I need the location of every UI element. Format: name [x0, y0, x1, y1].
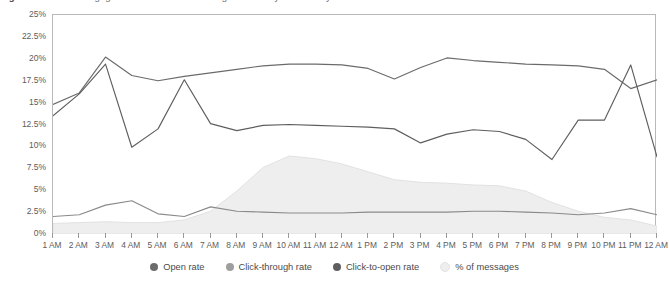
x-tick-label: 2 PM [384, 240, 404, 250]
figure-caption: Figure 4.1.2 Email engagement metrics an… [0, 0, 669, 3]
x-tick [420, 233, 421, 238]
legend-swatch-icon [333, 263, 341, 271]
y-tick-label: 22.5% [22, 31, 46, 41]
x-tick [52, 233, 53, 238]
x-tick-label: 1 PM [357, 240, 377, 250]
legend-item[interactable]: Open rate [150, 262, 204, 272]
legend-item[interactable]: Click-to-open rate [333, 262, 419, 272]
y-tick-label: 17.5% [22, 75, 46, 85]
series-area-of-messages [53, 156, 657, 234]
x-tick-label: 7 PM [515, 240, 535, 250]
x-tick-label: 9 PM [567, 240, 587, 250]
figure-root: Figure 4.1.2 Email engagement metrics an… [0, 0, 669, 282]
x-tick [262, 233, 263, 238]
x-tick-label: 9 AM [253, 240, 272, 250]
x-tick [78, 233, 79, 238]
legend-label: Click-to-open rate [346, 262, 419, 272]
x-axis: 1 AM2 AM3 AM4 AM5 AM6 AM7 AM8 AM9 AM10 A… [52, 233, 656, 257]
x-tick-label: 8 PM [541, 240, 561, 250]
x-tick [525, 233, 526, 238]
x-tick [157, 233, 158, 238]
x-tick-label: 3 AM [95, 240, 114, 250]
x-tick-label: 4 PM [436, 240, 456, 250]
x-tick-label: 1 AM [42, 240, 61, 250]
x-tick-label: 6 PM [489, 240, 509, 250]
legend-swatch-icon [226, 263, 234, 271]
x-tick [105, 233, 106, 238]
y-tick-label: 7.5% [27, 162, 46, 172]
x-tick [551, 233, 552, 238]
legend-label: Open rate [163, 262, 204, 272]
y-axis: 0%2.5%5%7.5%10%12.5%15%17.5%20%22.5%25% [0, 0, 50, 247]
x-tick-label: 7 AM [200, 240, 219, 250]
x-tick [131, 233, 132, 238]
y-tick-label: 12.5% [22, 119, 46, 129]
x-tick [183, 233, 184, 238]
x-tick-label: 6 AM [174, 240, 193, 250]
x-tick [577, 233, 578, 238]
x-tick [341, 233, 342, 238]
x-tick [288, 233, 289, 238]
x-tick-label: 5 PM [462, 240, 482, 250]
x-tick [630, 233, 631, 238]
legend-item[interactable]: % of messages [440, 262, 519, 272]
legend-swatch-icon [440, 262, 450, 272]
x-tick [210, 233, 211, 238]
x-tick [498, 233, 499, 238]
y-tick-label: 15% [29, 97, 46, 107]
x-tick [603, 233, 604, 238]
x-tick [236, 233, 237, 238]
y-tick-label: 20% [29, 53, 46, 63]
x-tick-label: 8 AM [226, 240, 245, 250]
y-tick-label: 25% [29, 9, 46, 19]
chart-svg [53, 15, 657, 234]
x-tick [393, 233, 394, 238]
series-line-open-rate [53, 57, 657, 104]
chart-legend: Open rateClick-through rateClick-to-open… [0, 258, 669, 276]
x-tick [315, 233, 316, 238]
y-tick-label: 5% [34, 184, 46, 194]
y-tick-label: 0% [34, 228, 46, 238]
plot-area [52, 14, 656, 233]
x-tick-label: 5 AM [147, 240, 166, 250]
y-tick-label: 10% [29, 140, 46, 150]
x-tick-label: 12 AM [644, 240, 668, 250]
x-tick [472, 233, 473, 238]
x-tick-label: 11 AM [303, 240, 326, 250]
x-tick-label: 11 PM [618, 240, 642, 250]
legend-swatch-icon [150, 263, 158, 271]
x-tick-label: 10 AM [276, 240, 300, 250]
legend-item[interactable]: Click-through rate [226, 262, 312, 272]
x-tick [656, 233, 657, 238]
x-tick-label: 4 AM [121, 240, 140, 250]
x-tick-label: 10 PM [591, 240, 615, 250]
x-tick-label: 2 AM [69, 240, 88, 250]
x-tick-label: 3 PM [410, 240, 430, 250]
x-tick [367, 233, 368, 238]
legend-label: % of messages [455, 262, 519, 272]
y-tick-label: 2.5% [27, 206, 46, 216]
x-tick [446, 233, 447, 238]
x-tick-label: 12 AM [329, 240, 353, 250]
figure-caption-text: Email engagement metrics and message vol… [57, 0, 331, 2]
legend-label: Click-through rate [239, 262, 312, 272]
